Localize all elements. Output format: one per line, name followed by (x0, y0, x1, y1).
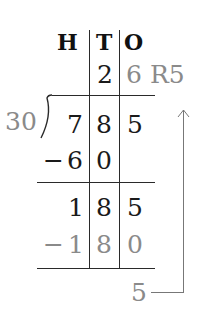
step1-rule (37, 182, 155, 183)
step2-tens: 8 (96, 232, 112, 257)
final-remainder: 5 (131, 280, 147, 305)
dividend-ones: 5 (127, 112, 143, 137)
step2-rule (37, 268, 155, 269)
header-ones: O (124, 30, 143, 55)
column-divider-to (119, 30, 120, 268)
header-tens: T (96, 30, 112, 55)
arrow-up-icon (177, 108, 190, 118)
division-bar (52, 95, 155, 96)
partial-hundreds: 1 (68, 195, 84, 220)
remainder-arrow-vertical (183, 110, 184, 293)
dividend-hundreds: 7 (67, 112, 83, 137)
remainder-arrow-horizontal (151, 292, 184, 293)
quotient-remainder: R5 (150, 62, 185, 87)
partial-ones: 5 (127, 195, 143, 220)
step2-ones: 0 (127, 232, 143, 257)
quotient-tens: 2 (97, 62, 113, 87)
dividend-tens: 8 (96, 112, 112, 137)
step1-hundreds: 6 (67, 148, 83, 173)
column-divider-ht (89, 30, 90, 268)
step2-minus-sign: − (43, 232, 64, 257)
step2-hundreds: 1 (68, 232, 84, 257)
partial-tens: 8 (96, 195, 112, 220)
divisor: 30 (5, 109, 37, 134)
header-hundreds: H (57, 30, 78, 55)
quotient-ones: 6 (126, 62, 142, 87)
division-bracket-icon (38, 94, 54, 140)
step1-minus-sign: − (43, 148, 64, 173)
step1-tens: 0 (96, 148, 112, 173)
